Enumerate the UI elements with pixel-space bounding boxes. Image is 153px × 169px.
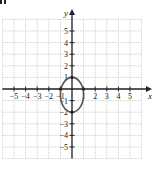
x-tick-label: −4 [21,92,30,101]
coordinate-plane: xy−5−4−3−2−11234554321−1−2−3−4−5 [0,0,153,169]
y-tick-label: −5 [59,143,68,152]
axes [2,9,152,159]
x-tick-label: −2 [45,92,54,101]
x-axis-label: x [147,91,152,101]
x-tick-label: −5 [10,92,19,101]
x-tick-label: 5 [128,92,132,101]
y-tick-label: 3 [64,50,68,59]
point-marker [70,76,73,79]
y-tick-label: −3 [59,120,68,129]
point-marker [70,111,73,114]
y-tick-label: 5 [64,27,68,36]
x-tick-label: 2 [93,92,97,101]
point-marker [59,87,62,90]
x-tick-label: 4 [116,92,120,101]
y-axis-label: y [63,8,68,18]
y-tick-label: 4 [64,39,68,48]
y-tick-label: −4 [59,131,68,140]
y-tick-label: 2 [64,62,68,71]
tick-labels: xy−5−4−3−2−11234554321−1−2−3−4−5 [10,8,152,152]
y-axis-arrow-icon [69,9,75,15]
x-tick-label: −3 [33,92,42,101]
point-marker [82,87,85,90]
x-tick-label: 3 [105,92,109,101]
